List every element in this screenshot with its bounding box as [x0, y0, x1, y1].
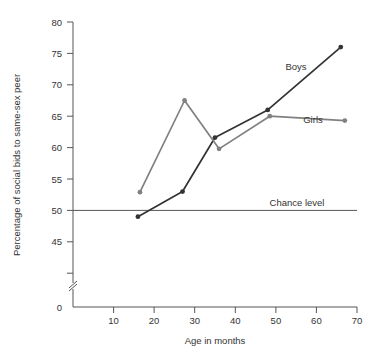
- data-point: [338, 45, 343, 50]
- y-tick-label-70: 70: [51, 79, 62, 90]
- data-point: [213, 135, 218, 140]
- y-tick-label-65: 65: [51, 111, 62, 122]
- y-tick-label-0: 0: [57, 302, 62, 313]
- y-axis-ticks: [67, 22, 73, 273]
- data-point: [136, 214, 141, 219]
- data-point: [182, 98, 187, 103]
- x-tick-label-60: 60: [311, 315, 322, 326]
- data-point: [267, 114, 272, 119]
- y-tick-label-60: 60: [51, 142, 62, 153]
- data-point: [180, 189, 185, 194]
- y-tick-label-75: 75: [51, 48, 62, 59]
- chart-container: 80 75 70 65 60 55 50 45 0 10 20 30 40 50…: [0, 0, 376, 353]
- x-tick-label-50: 50: [271, 315, 282, 326]
- x-tick-label-30: 30: [189, 315, 200, 326]
- data-point: [217, 146, 222, 151]
- y-tick-label-80: 80: [51, 17, 62, 28]
- x-tick-label-20: 20: [149, 315, 160, 326]
- series-line-boys: [138, 47, 341, 217]
- series-layer: [136, 45, 348, 219]
- x-axis-title: Age in months: [185, 335, 246, 346]
- series-boys: [136, 45, 344, 219]
- chance-level-label: Chance level: [270, 197, 325, 208]
- line-chart: 80 75 70 65 60 55 50 45 0 10 20 30 40 50…: [0, 0, 376, 353]
- series-label-girls: Girls: [303, 114, 323, 125]
- y-tick-label-45: 45: [51, 236, 62, 247]
- y-axis-title: Percentage of social bids to same-sex pe…: [11, 74, 22, 256]
- y-tick-label-55: 55: [51, 174, 62, 185]
- series-label-boys: Boys: [285, 61, 306, 72]
- series-girls: [138, 98, 348, 194]
- data-point: [265, 108, 270, 113]
- data-point: [342, 118, 347, 123]
- x-tick-label-40: 40: [230, 315, 241, 326]
- x-tick-label-70: 70: [352, 315, 363, 326]
- x-axis-ticks: [114, 307, 357, 313]
- y-tick-label-50: 50: [51, 205, 62, 216]
- data-point: [138, 190, 143, 195]
- x-tick-label-10: 10: [108, 315, 119, 326]
